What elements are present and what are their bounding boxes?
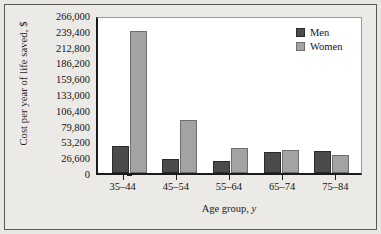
x-axis-title-main: Age group, xyxy=(202,203,249,214)
y-axis-tick-label: 239,400 xyxy=(56,27,90,39)
bar-group xyxy=(264,18,299,173)
y-axis-tick-label: 0 xyxy=(85,169,90,181)
legend-item: Men xyxy=(296,27,342,38)
y-axis-tick-label: 106,400 xyxy=(56,106,90,118)
bar-group xyxy=(112,18,147,173)
legend-swatch-icon xyxy=(296,28,305,37)
bar-women xyxy=(130,31,147,173)
x-axis-tick-mark xyxy=(176,175,177,180)
y-axis-tick-label: 212,800 xyxy=(56,43,90,55)
bar-women xyxy=(231,148,248,173)
bar-women xyxy=(180,120,197,173)
legend-label: Men xyxy=(310,27,329,38)
legend: MenWomen xyxy=(296,27,342,52)
y-axis-tick-label: 53,200 xyxy=(61,137,90,149)
y-axis-tick-label: 159,600 xyxy=(56,74,90,86)
y-axis-tick-label: 79,800 xyxy=(61,122,90,134)
legend-item: Women xyxy=(296,41,342,52)
figure-container: Cost per year of life saved, $ 266,00023… xyxy=(0,0,381,234)
y-axis-tick-label: 26,600 xyxy=(61,153,90,165)
bar-women xyxy=(282,150,299,173)
x-axis-tick-mark xyxy=(123,175,124,180)
x-axis-tick-label: 65–74 xyxy=(269,181,295,192)
x-axis-title: Age group, y xyxy=(96,203,362,214)
bar-men xyxy=(314,151,331,173)
y-axis-tick-label: 266,000 xyxy=(56,11,90,23)
bar-men xyxy=(264,152,281,173)
y-axis-tick-label: 133,000 xyxy=(56,90,90,102)
x-axis-tick-labels: 35–4445–5455–6465–7475–84 xyxy=(96,181,362,192)
x-axis-tick-mark xyxy=(282,175,283,180)
x-axis-title-variable: y xyxy=(252,203,257,214)
y-axis-tick-label: 186,200 xyxy=(56,58,90,70)
x-axis-tick-mark xyxy=(335,175,336,180)
x-axis-tick-label: 45–54 xyxy=(163,181,189,192)
bar-men xyxy=(213,161,230,173)
y-axis-title: Cost per year of life saved, $ xyxy=(18,9,29,159)
y-axis-tick-labels: 266,000239,400212,800186,200159,600133,0… xyxy=(36,17,90,175)
legend-swatch-icon xyxy=(296,42,305,51)
legend-label: Women xyxy=(310,41,342,52)
x-axis-tick-label: 35–44 xyxy=(109,181,135,192)
bar-group xyxy=(213,18,248,173)
x-axis-tick-label: 55–64 xyxy=(216,181,242,192)
bar-group xyxy=(162,18,197,173)
x-axis-tick-label: 75–84 xyxy=(322,181,348,192)
bar-men xyxy=(112,146,129,173)
x-axis-tick-mark xyxy=(229,175,230,180)
bar-men xyxy=(162,159,179,173)
bar-women xyxy=(332,155,349,173)
